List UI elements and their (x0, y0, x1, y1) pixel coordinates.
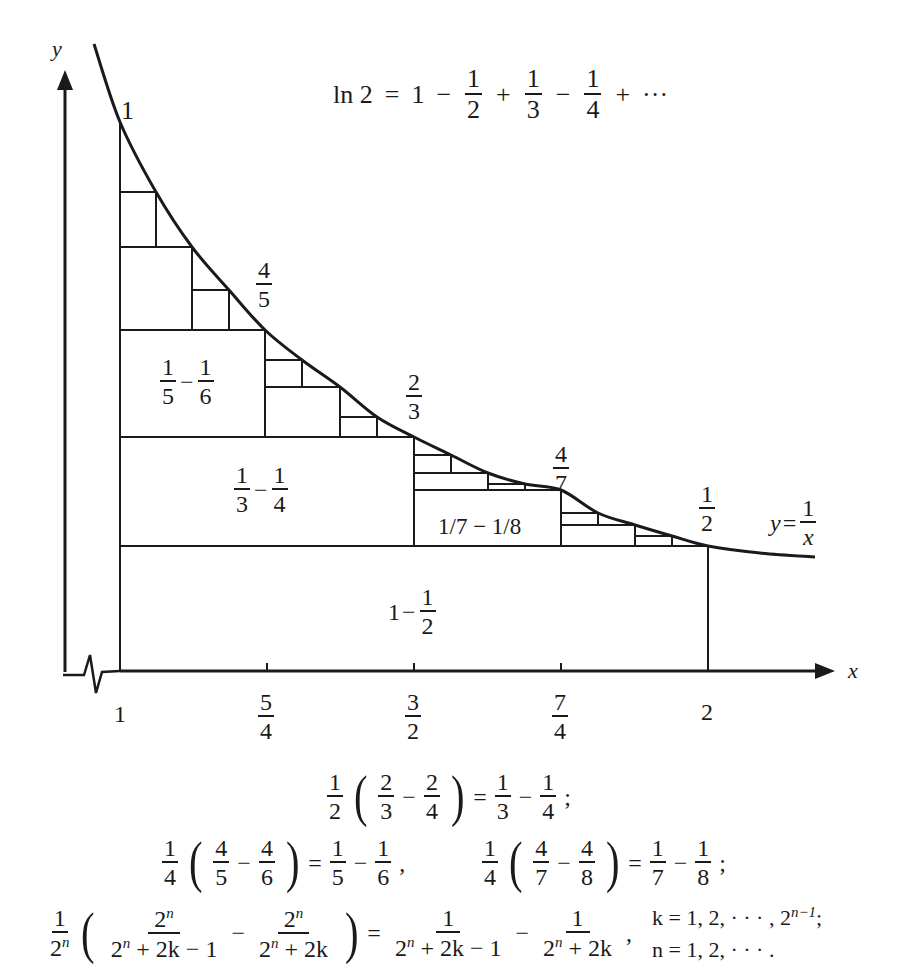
y-axis-label: y (52, 38, 62, 60)
equation-general: 12n ( 2n2n + 2k − 1 − 2n2n + 2k ) = 12n … (48, 905, 822, 961)
op-3: − (556, 82, 571, 108)
region-label-1-7-minus-1-8: 1/7 − 1/8 (438, 515, 521, 538)
x-axis-label: x (848, 660, 858, 682)
x-axis-arrow-icon (815, 663, 835, 679)
term-0: 1 (411, 82, 424, 108)
curve-label-4-5: 45 (254, 258, 274, 311)
title-lhs: ln 2 (333, 82, 373, 108)
title-formula: ln 2 = 1 − 12 + 13 − 14 + ··· (333, 66, 668, 123)
equation-3: 14 ( 47 − 48 ) = 17 − 18 ; (480, 836, 726, 889)
term-1: 12 (465, 66, 482, 123)
equation-1: 12 ( 23 − 24 ) = 13 − 14 ; (325, 770, 571, 823)
ellipsis: ··· (642, 82, 668, 108)
term-2: 13 (525, 66, 542, 123)
region-label-1-3-minus-1-4: 13−14 (232, 463, 290, 516)
curve-label-1-2: 12 (697, 482, 717, 535)
x-tick-1: 1 (114, 702, 126, 726)
region-label-1-5-minus-1-6: 15−16 (158, 355, 216, 408)
curve-label-1: 1 (121, 98, 134, 124)
equation-2: 14 ( 45 − 46 ) = 15 − 16 , (160, 836, 405, 889)
diagram-canvas (0, 0, 921, 980)
curve-label-4-7: 47 (551, 442, 571, 495)
index-conditions: k = 1, 2, · · · , 2n−1; n = 1, 2, · · · … (652, 905, 822, 961)
curve-label-2-3: 23 (404, 370, 424, 423)
curve-equation-label: y = 1x (770, 496, 818, 549)
y-axis-arrow-icon (57, 70, 73, 90)
x-tick-7-4: 74 (550, 690, 570, 743)
op-1: − (436, 82, 451, 108)
region-label-1-minus-1-2: 1−12 (388, 585, 438, 638)
x-axis-break-icon (63, 655, 120, 693)
op-4: + (615, 82, 630, 108)
term-3: 14 (584, 66, 601, 123)
x-tick-2: 2 (701, 700, 713, 724)
x-tick-3-2: 32 (403, 690, 423, 743)
equals-sign: = (385, 82, 400, 108)
x-tick-5-4: 54 (256, 690, 276, 743)
op-2: + (496, 82, 511, 108)
